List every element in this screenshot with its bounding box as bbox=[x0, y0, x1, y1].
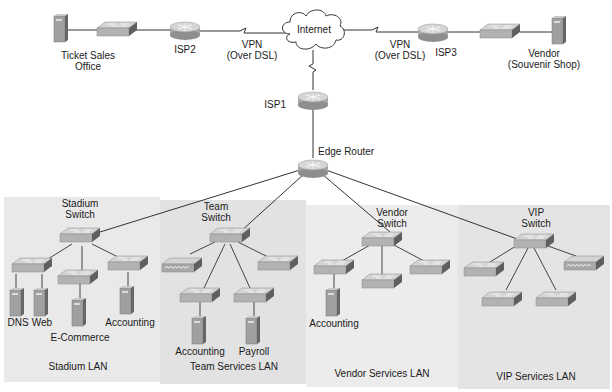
ecommerce-label: E-Commerce bbox=[51, 332, 110, 343]
ticket-office-label-1: Ticket Sales bbox=[61, 50, 115, 61]
team-access-switch-icon bbox=[258, 256, 298, 270]
ticket-office-server-icon bbox=[54, 14, 68, 42]
vip-switch-icon bbox=[514, 234, 554, 248]
vendor-access-switch-icon bbox=[314, 260, 354, 274]
payroll-label: Payroll bbox=[239, 346, 270, 357]
isp1-label: ISP1 bbox=[264, 99, 286, 110]
team-lan-label: Team Services LAN bbox=[190, 361, 278, 372]
ticket-office-switch-icon bbox=[97, 22, 137, 36]
vpn-left-label-2: (Over DSL) bbox=[227, 50, 278, 61]
stadium-switch-label-2: Switch bbox=[65, 209, 94, 220]
vendor-access-switch-icon bbox=[410, 260, 450, 274]
stadium-lan-area bbox=[4, 197, 160, 382]
payroll-server-icon bbox=[246, 316, 260, 344]
team-accounting-server-icon bbox=[192, 316, 206, 344]
web-label: Web bbox=[32, 317, 53, 328]
vpn-left-label-1: VPN bbox=[242, 39, 263, 50]
dns-server-icon bbox=[10, 288, 24, 316]
isp3-label: ISP3 bbox=[435, 47, 457, 58]
stadium-accounting-server-icon bbox=[120, 286, 134, 314]
vendor-access-switch-icon bbox=[362, 274, 402, 288]
vendor-accounting-server-icon bbox=[326, 288, 340, 316]
vendor-shop-switch-icon bbox=[480, 24, 520, 38]
vip-access-switch-icon bbox=[482, 292, 522, 306]
team-switch-label-1: Team bbox=[204, 201, 228, 212]
ecommerce-server-icon bbox=[72, 298, 86, 326]
ticket-office-label-2: Office bbox=[75, 61, 101, 72]
team-switch-label-2: Switch bbox=[201, 212, 230, 223]
isp3-router-icon bbox=[418, 24, 448, 42]
team-accounting-label: Accounting bbox=[175, 346, 224, 357]
edge-router-label: Edge Router bbox=[318, 146, 375, 157]
stadium-accounting-label: Accounting bbox=[105, 317, 154, 328]
vpn-right-label-1: VPN bbox=[390, 39, 411, 50]
vendor-accounting-label: Accounting bbox=[309, 318, 358, 329]
stadium-access-switch-icon bbox=[108, 256, 148, 270]
vip-access-switch-icon bbox=[464, 262, 504, 276]
vip-switch-label-2: Switch bbox=[521, 218, 550, 229]
vip-lan-label: VIP Services LAN bbox=[496, 371, 575, 382]
team-hub-icon bbox=[162, 258, 202, 272]
vendor-shop-label-1: Vendor bbox=[528, 48, 560, 59]
stadium-lan-label: Stadium LAN bbox=[49, 361, 108, 372]
vip-lan-area bbox=[458, 205, 610, 389]
network-diagram: Ticket Sales Office ISP2 VPN (Over DSL) … bbox=[0, 0, 612, 392]
vip-hub-icon bbox=[564, 256, 604, 270]
edge-router-icon bbox=[298, 160, 328, 178]
stadium-access-switch-icon bbox=[58, 270, 98, 284]
isp2-router-icon bbox=[170, 22, 200, 40]
team-access-switch-icon bbox=[180, 288, 220, 302]
vip-switch-label-1: VIP bbox=[528, 207, 544, 218]
dns-label: DNS bbox=[7, 317, 28, 328]
vendor-switch-icon bbox=[362, 232, 402, 246]
vendor-switch-label-2: Switch bbox=[377, 218, 406, 229]
web-server-icon bbox=[34, 288, 48, 316]
vpn-right-label-2: (Over DSL) bbox=[375, 50, 426, 61]
isp1-router-icon bbox=[298, 92, 328, 110]
stadium-switch-label-1: Stadium bbox=[62, 198, 99, 209]
vendor-lan-label: Vendor Services LAN bbox=[334, 368, 429, 379]
team-access-switch-icon bbox=[234, 288, 274, 302]
team-switch-icon bbox=[210, 228, 250, 242]
vendor-switch-label-1: Vendor bbox=[376, 207, 408, 218]
vendor-shop-server-icon bbox=[552, 16, 566, 44]
stadium-access-switch-icon bbox=[12, 258, 52, 272]
vip-access-switch-icon bbox=[536, 292, 576, 306]
isp2-label: ISP2 bbox=[174, 44, 196, 55]
stadium-switch-icon bbox=[60, 228, 100, 242]
internet-label: Internet bbox=[297, 24, 331, 35]
vendor-shop-label-2: (Souvenir Shop) bbox=[508, 59, 580, 70]
